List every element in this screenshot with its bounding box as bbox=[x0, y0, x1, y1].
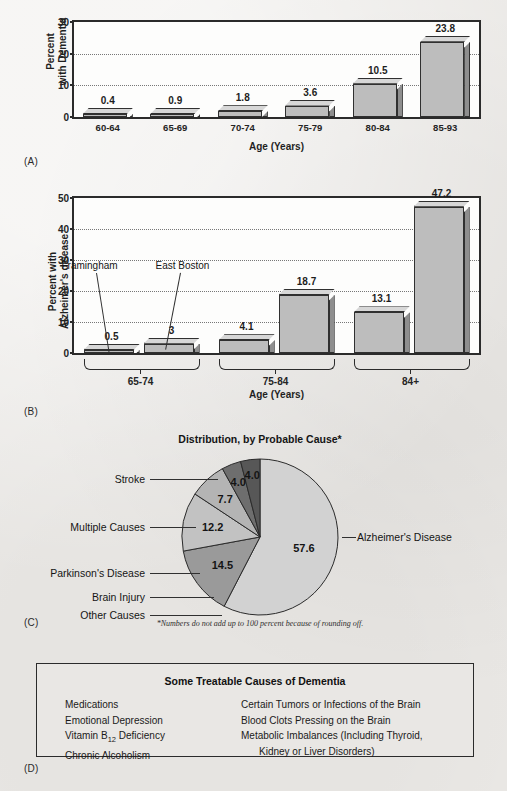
bar bbox=[150, 114, 194, 117]
list-item: Certain Tumors or Infections of the Brai… bbox=[241, 697, 423, 713]
x-axis-tick-label: 75-79 bbox=[298, 122, 322, 133]
pie-label-stroke: Stroke bbox=[0, 473, 145, 485]
bar-value-label: 0.4 bbox=[101, 95, 115, 106]
bar bbox=[285, 106, 329, 117]
panel-a-x-axis-title: Age (Years) bbox=[72, 141, 481, 152]
list-item: Blood Clots Pressing on the Brain bbox=[241, 713, 423, 729]
pie-chart-footnote: *Numbers do not add up to 100 percent be… bbox=[110, 619, 410, 628]
x-axis-tick-label: 80-84 bbox=[366, 122, 390, 133]
bar-front-face bbox=[353, 84, 397, 117]
list-item: Kidney or Liver Disorders) bbox=[241, 744, 423, 760]
bar-value-label: 3.6 bbox=[303, 87, 317, 98]
list-item: Metabolic Imbalances (Including Thyroid, bbox=[241, 728, 423, 744]
x-axis-tick-label: 70-74 bbox=[231, 122, 255, 133]
panel-a-y-axis-line1: Percent bbox=[45, 33, 56, 70]
y-axis-tick-mark bbox=[70, 53, 74, 55]
gridline bbox=[74, 54, 479, 55]
bar-top-face bbox=[83, 108, 133, 114]
bar-top-face bbox=[150, 108, 200, 114]
bar-front-face bbox=[420, 42, 464, 117]
pie-leader-line bbox=[150, 615, 222, 616]
panel-a-plot-area: 01020300.460-640.965-691.870-743.675-791… bbox=[72, 20, 481, 119]
y-axis-tick-label: 30 bbox=[58, 17, 69, 28]
bar-value-label: 23.8 bbox=[436, 23, 455, 34]
bar bbox=[353, 84, 397, 117]
group-bracket-tick bbox=[275, 369, 276, 374]
bar-front-face bbox=[150, 114, 194, 117]
list-item: Medications bbox=[65, 697, 165, 713]
panel-b: Percent with Alzheimer's disease 0102030… bbox=[0, 170, 507, 420]
pie-leader-line bbox=[150, 479, 218, 480]
panel-b-group-brackets: 65-7475-8484+ bbox=[0, 170, 507, 420]
panel-b-x-axis-title: Age (Years) bbox=[72, 389, 481, 400]
group-label: 75-84 bbox=[263, 376, 289, 387]
group-bracket bbox=[219, 359, 335, 370]
panel-b-letter: (B) bbox=[24, 406, 38, 417]
y-axis-tick-mark bbox=[70, 116, 74, 118]
y-axis-tick-mark bbox=[70, 84, 74, 86]
panel-a: Percent with Dementia 01020300.460-640.9… bbox=[0, 0, 507, 170]
panel-c: Distribution, by Probable Cause* 57.614.… bbox=[0, 420, 507, 635]
bar-front-face bbox=[218, 111, 262, 117]
bar-side-face bbox=[397, 84, 403, 117]
bar-top-face bbox=[353, 78, 403, 84]
group-bracket-tick bbox=[410, 369, 411, 374]
group-label: 65-74 bbox=[128, 376, 154, 387]
pie-label-multiple-causes: Multiple Causes bbox=[0, 521, 145, 533]
bar bbox=[420, 42, 464, 117]
bar-value-label: 10.5 bbox=[368, 65, 387, 76]
bar bbox=[83, 114, 127, 117]
x-axis-tick-label: 60-64 bbox=[96, 122, 120, 133]
pie-leader-line bbox=[150, 573, 200, 574]
bar-side-face bbox=[194, 114, 200, 117]
bar-front-face bbox=[83, 114, 127, 117]
group-bracket bbox=[84, 359, 200, 370]
treatable-causes-right-column: Certain Tumors or Infections of the Brai… bbox=[241, 697, 423, 759]
x-axis-tick-label: 65-69 bbox=[163, 122, 187, 133]
bar-value-label: 0.9 bbox=[168, 95, 182, 106]
bar-top-face bbox=[285, 100, 335, 106]
panel-a-letter: (A) bbox=[24, 156, 38, 167]
list-item: Vitamin B12 Deficiency bbox=[65, 728, 165, 748]
pie-chart-labels: Alzheimer's DiseaseStrokeMultiple Causes… bbox=[0, 420, 507, 635]
bar-top-face bbox=[218, 105, 268, 111]
treatable-causes-left-column: Medications Emotional Depression Vitamin… bbox=[65, 697, 165, 763]
treatable-causes-box: Some Treatable Causes of Dementia Medica… bbox=[36, 663, 474, 757]
list-item: Emotional Depression bbox=[65, 713, 165, 729]
y-axis-tick-label: 20 bbox=[58, 48, 69, 59]
bar-side-face bbox=[262, 111, 268, 117]
pie-leader-line bbox=[150, 597, 214, 598]
y-axis-tick-label: 0 bbox=[63, 112, 69, 123]
bar-side-face bbox=[329, 106, 335, 117]
bar-value-label: 1.8 bbox=[236, 92, 250, 103]
bar-top-face bbox=[420, 36, 470, 42]
bar-side-face bbox=[127, 114, 133, 117]
bar bbox=[218, 111, 262, 117]
panel-d: Some Treatable Causes of Dementia Medica… bbox=[0, 635, 507, 791]
figure-page: Percent with Dementia 01020300.460-640.9… bbox=[0, 0, 507, 791]
treatable-causes-title: Some Treatable Causes of Dementia bbox=[37, 675, 473, 687]
group-bracket bbox=[354, 359, 470, 370]
pie-label-alzheimers: Alzheimer's Disease bbox=[357, 531, 452, 543]
pie-label-parkinson-s-disease: Parkinson's Disease bbox=[0, 567, 145, 579]
y-axis-tick-label: 10 bbox=[58, 80, 69, 91]
bar-front-face bbox=[285, 106, 329, 117]
pie-leader-line bbox=[150, 527, 196, 528]
x-axis-tick-label: 85-93 bbox=[433, 122, 457, 133]
gridline bbox=[74, 85, 479, 86]
y-axis-tick-mark bbox=[70, 21, 74, 23]
bar-side-face bbox=[464, 42, 470, 117]
list-item: Chronic Alcoholism bbox=[65, 748, 165, 764]
group-bracket-tick bbox=[140, 369, 141, 374]
group-label: 84+ bbox=[402, 376, 419, 387]
pie-label-brain-injury: Brain Injury bbox=[0, 591, 145, 603]
pie-leader-line bbox=[342, 537, 356, 538]
panel-c-letter: (C) bbox=[24, 617, 38, 628]
panel-d-letter: (D) bbox=[24, 763, 38, 774]
